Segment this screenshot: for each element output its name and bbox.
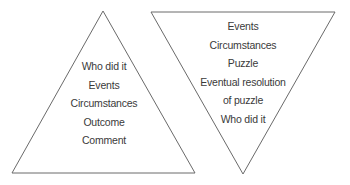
inverted-pyramid-item: of puzzle	[193, 91, 293, 110]
inverted-pyramid-item: Who did it	[193, 110, 293, 129]
inverted-pyramid-item: Eventual resolution	[193, 73, 293, 92]
inverted-pyramid-item: Events	[193, 17, 293, 36]
pyramid-item: Comment	[54, 131, 154, 150]
pyramid-labels: Who did it Events Circumstances Outcome …	[54, 57, 154, 150]
pyramid-item: Events	[54, 76, 154, 95]
pyramid-item: Circumstances	[54, 94, 154, 113]
inverted-pyramid-item: Puzzle	[193, 54, 293, 73]
inverted-pyramid-labels: Events Circumstances Puzzle Eventual res…	[193, 17, 293, 128]
pyramid-item: Outcome	[54, 113, 154, 132]
diagram-shapes	[0, 0, 350, 185]
inverted-pyramid-item: Circumstances	[193, 36, 293, 55]
pyramid-item: Who did it	[54, 57, 154, 76]
